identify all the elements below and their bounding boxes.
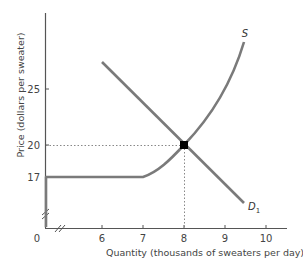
chart-svg: 0 6 7 8 9 10 25 20 17 Quantity (thousand…	[0, 0, 303, 264]
demand-label-subscript: 1	[256, 207, 260, 215]
y-tick-20: 20	[27, 140, 40, 151]
x-tick-10: 10	[260, 233, 273, 244]
equilibrium-point	[180, 141, 188, 149]
y-axis-title: Price (dollars per sweater)	[15, 32, 26, 157]
supply-curve	[46, 42, 244, 227]
supply-label: S	[242, 28, 249, 39]
x-tick-7: 7	[140, 233, 146, 244]
x-tick-8: 8	[181, 233, 187, 244]
x-tick-6: 6	[99, 233, 105, 244]
x-axis-title: Quantity (thousands of sweaters per day)	[106, 247, 303, 258]
x-tick-9: 9	[222, 233, 228, 244]
origin-label: 0	[34, 233, 40, 244]
y-tick-17: 17	[27, 172, 40, 183]
demand-label: D1	[248, 201, 260, 215]
supply-demand-chart: 0 6 7 8 9 10 25 20 17 Quantity (thousand…	[0, 0, 303, 264]
y-tick-25: 25	[27, 84, 40, 95]
demand-curve	[102, 62, 244, 203]
